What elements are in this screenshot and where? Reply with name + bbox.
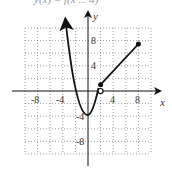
open-endpoint bbox=[98, 89, 103, 94]
y-tick-label: 8 bbox=[91, 35, 96, 46]
x-tick-label: 8 bbox=[135, 94, 140, 105]
x-tick-label: 4 bbox=[110, 94, 115, 105]
x-tick-label: -8 bbox=[31, 94, 39, 105]
y-tick-label: -8 bbox=[76, 136, 84, 147]
closed-endpoint-end bbox=[136, 42, 141, 47]
x-axis-label: x bbox=[159, 96, 165, 108]
closed-endpoint-start bbox=[98, 82, 103, 87]
line-segment bbox=[101, 44, 139, 85]
function-graph: x y -8 -4 4 8 8 4 -4 -8 bbox=[0, 0, 172, 172]
x-tick-label: -4 bbox=[56, 94, 64, 105]
y-axis-label: y bbox=[92, 10, 98, 22]
y-tick-label: 4 bbox=[91, 60, 96, 71]
